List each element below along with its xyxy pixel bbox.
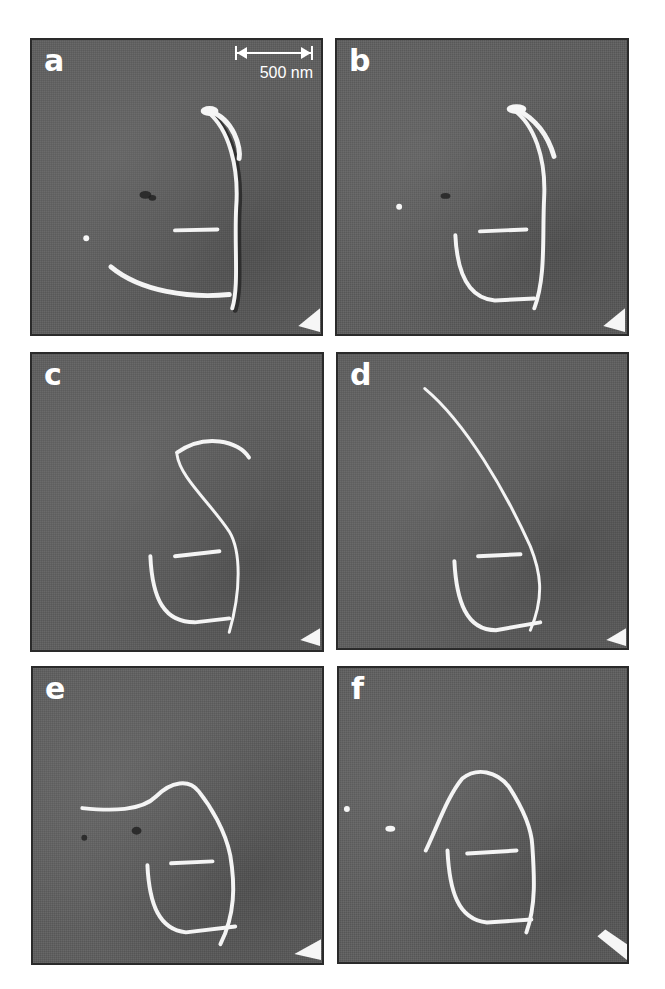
panel-b: b — [335, 38, 629, 336]
panel-label: b — [349, 46, 370, 76]
panel-label: d — [350, 360, 371, 390]
panel-f: f — [337, 666, 629, 964]
panel-label: a — [44, 46, 64, 76]
double-arrow-icon — [235, 46, 313, 60]
nanotube-trace — [32, 354, 322, 650]
panel-c: c — [30, 352, 324, 652]
nanotube-trace — [33, 668, 322, 963]
panel-label: e — [45, 674, 65, 704]
panel-d: d — [336, 352, 629, 650]
panel-a: a 500 nm — [30, 38, 323, 336]
panel-label: f — [351, 674, 364, 704]
panel-label: c — [44, 360, 62, 390]
panel-e: e — [31, 666, 324, 965]
nanotube-trace — [337, 40, 627, 334]
nanotube-trace — [32, 40, 321, 334]
nanotube-trace — [339, 668, 627, 962]
scale-bar-label: 500 nm — [225, 64, 313, 82]
scale-bar: 500 nm — [225, 46, 313, 82]
nanotube-trace — [338, 354, 627, 648]
